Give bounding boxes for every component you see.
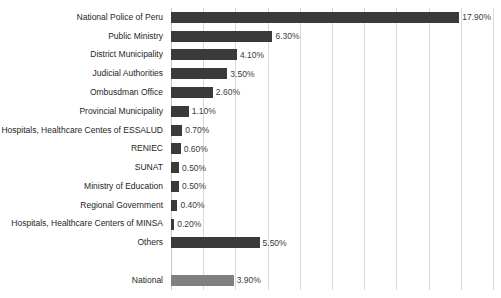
y-axis-tick-label: National [132,276,167,285]
bar[interactable] [171,162,179,173]
y-axis-tick-label: SUNAT [135,163,167,172]
y-axis-tick-row: National Police of Peru [0,8,167,27]
bar-value-label: 4.10% [237,51,264,60]
y-axis-tick-row: Hospitals, Healthcare Centers of MINSA [0,215,167,234]
y-axis-tick-label: RENIEC [131,144,167,153]
y-axis-tick-row: National [0,271,167,290]
y-axis-tick-label: Public Ministry [108,32,167,41]
bar[interactable] [171,87,213,98]
bar-row[interactable]: 3.90% [171,271,493,290]
bar-row[interactable]: 1.10% [171,102,493,121]
bar-row[interactable]: 3.50% [171,64,493,83]
bar[interactable] [171,106,189,117]
bar-value-label: 5.50% [260,239,287,248]
bar-row[interactable]: 6.30% [171,27,493,46]
bar-value-label: 0.50% [179,182,206,191]
y-axis-tick-label: National Police of Peru [77,13,167,22]
bar[interactable] [171,31,272,42]
bar-row[interactable]: 0.70% [171,121,493,140]
bar-value-label: 2.60% [213,88,240,97]
bar[interactable] [171,125,182,136]
bar[interactable] [171,237,260,248]
gridline [493,8,494,290]
bar-row[interactable] [171,252,493,271]
bar[interactable] [171,12,459,23]
bar-value-label: 6.30% [272,32,299,41]
bar-row[interactable]: 2.60% [171,83,493,102]
y-axis-tick-row: Ministry of Education [0,177,167,196]
bar-row[interactable]: 0.50% [171,177,493,196]
y-axis-tick-row: Others [0,234,167,253]
bar-row[interactable]: 17.90% [171,8,493,27]
bar-value-label: 0.70% [182,126,209,135]
bar-chart: National Police of PeruPublic MinistryDi… [0,0,501,298]
y-axis-tick-row: Regional Government [0,196,167,215]
y-axis-tick-label: Ministry of Education [84,182,167,191]
y-axis-tick-row: RENIEC [0,140,167,159]
y-axis-tick-row: District Municipality [0,46,167,65]
y-axis-tick-row: SUNAT [0,158,167,177]
bar-value-label: 17.90% [459,13,491,22]
y-axis-category-labels: National Police of PeruPublic MinistryDi… [0,8,167,290]
y-axis-tick-label: District Municipality [90,50,167,59]
bar-row[interactable]: 0.50% [171,158,493,177]
y-axis-tick-row: Judicial Authorities [0,64,167,83]
bar[interactable] [171,181,179,192]
plot-area: 17.90%6.30%4.10%3.50%2.60%1.10%0.70%0.60… [171,8,493,290]
bar-value-label: 0.60% [181,145,208,154]
y-axis-tick-row: Provincial Municipality [0,102,167,121]
y-axis-tick-row: Public Ministry [0,27,167,46]
y-axis-tick-row [0,252,167,271]
y-axis-tick-label: Regional Government [80,201,167,210]
y-axis-tick-label: Judicial Authorities [93,69,167,78]
y-axis-tick-row: Hospitals, Healthcare Centes of ESSALUD [0,121,167,140]
bar-value-label: 0.40% [177,201,204,210]
y-axis-tick-label: Provincial Municipality [79,107,167,116]
bar[interactable] [171,143,181,154]
bar-value-label: 3.50% [227,70,254,79]
y-axis-tick-row: Ombusdman Office [0,83,167,102]
bar-value-label: 1.10% [189,107,216,116]
bar-value-label: 0.50% [179,164,206,173]
bar-row[interactable]: 0.20% [171,215,493,234]
bar[interactable] [171,49,237,60]
y-axis-tick-label: Others [137,238,167,247]
bar[interactable] [171,275,234,286]
bar-row[interactable]: 4.10% [171,46,493,65]
bar-value-label: 3.90% [234,276,261,285]
bar-row[interactable]: 5.50% [171,234,493,253]
bar-row[interactable]: 0.60% [171,140,493,159]
y-axis-tick-label: Ombusdman Office [90,88,167,97]
y-axis-tick-label: Hospitals, Healthcare Centers of MINSA [11,219,167,228]
bar-rows: 17.90%6.30%4.10%3.50%2.60%1.10%0.70%0.60… [171,8,493,290]
bar[interactable] [171,68,227,79]
bar-value-label: 0.20% [174,220,201,229]
y-axis-tick-label: Hospitals, Healthcare Centes of ESSALUD [1,126,167,135]
bar-row[interactable]: 0.40% [171,196,493,215]
